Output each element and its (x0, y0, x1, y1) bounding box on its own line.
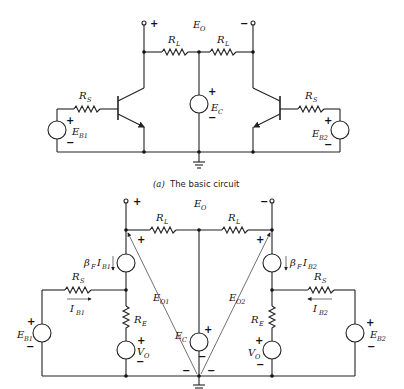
svg-text:L: L (163, 218, 168, 226)
load-resistor-left-b-label: R L (155, 212, 168, 226)
svg-text:R: R (133, 314, 142, 325)
node-voltage-eo1-label: E O1 (152, 292, 169, 306)
svg-text:+: + (366, 317, 374, 328)
load-resistor-left-label: R L (167, 34, 180, 48)
supply-label-ec-b: E C (174, 330, 187, 344)
svg-text:B2: B2 (318, 134, 328, 142)
source-resistor-left (74, 106, 100, 112)
svg-text:L: L (175, 40, 180, 48)
source-resistor-left-b-label: R S (71, 271, 85, 285)
svg-text:I: I (69, 303, 75, 314)
svg-text:R: R (71, 271, 80, 282)
dependent-source-left-label: β F I B1 (83, 257, 111, 271)
svg-text:B2: B2 (307, 263, 317, 271)
emitter-resistor-left (123, 306, 129, 331)
transistor-right (253, 88, 280, 152)
svg-text:L: L (224, 40, 229, 48)
svg-text:E: E (141, 320, 147, 328)
svg-text:O: O (201, 204, 207, 212)
svg-text:−: − (367, 341, 375, 352)
load-resistor-right-b-label: R L (227, 212, 240, 226)
svg-text:−: − (182, 365, 190, 376)
output-minus-sign: − (240, 18, 248, 29)
output-terminal-left (142, 21, 146, 25)
svg-text:B1: B1 (23, 335, 33, 343)
svg-text:The basic circuit: The basic circuit (169, 179, 240, 189)
svg-text:O2: O2 (236, 298, 245, 306)
input-source-eb1-b (33, 324, 51, 342)
dependent-current-source-right (263, 254, 281, 272)
svg-text:β: β (289, 257, 296, 268)
source-resistor-right (298, 106, 324, 112)
input-source-eb2-b (346, 324, 364, 342)
svg-text:R: R (304, 90, 313, 101)
svg-text:F: F (296, 263, 302, 271)
svg-text:+: + (27, 316, 35, 327)
svg-text:R: R (78, 90, 87, 101)
svg-text:S: S (80, 277, 85, 285)
caption-a: (a) The basic circuit (153, 179, 240, 189)
svg-text:−: − (198, 351, 206, 362)
svg-text:I: I (312, 303, 318, 314)
svg-text:+: + (324, 115, 332, 126)
load-resistor-left-b (150, 227, 176, 233)
differential-amplifier-figure: + − E O R L R L + − E (0, 0, 404, 389)
transistor-left (118, 88, 144, 152)
svg-text:S: S (87, 96, 92, 104)
svg-text:S: S (322, 277, 327, 285)
svg-text:−: − (207, 365, 215, 376)
load-resistor-left (162, 49, 188, 55)
output-voltage-label: E O (192, 19, 206, 33)
svg-text:(a): (a) (153, 179, 165, 189)
supply-source-ec (190, 95, 208, 113)
svg-text:R: R (250, 314, 259, 325)
svg-text:C: C (182, 336, 187, 344)
ground-icon-b (193, 376, 205, 388)
svg-text:R: R (227, 212, 236, 223)
vo-source-right (263, 341, 281, 359)
ec-plus: + (208, 86, 216, 97)
svg-text:S: S (313, 96, 318, 104)
svg-text:+: + (204, 324, 212, 335)
load-resistor-right (210, 49, 236, 55)
svg-text:O1: O1 (160, 298, 169, 306)
svg-text:C: C (218, 108, 223, 116)
circuit-b: + − E O R L R L + − E C (16, 196, 386, 388)
supply-source-ec-b (190, 333, 208, 351)
source-resistor-right-b-label: R S (313, 271, 327, 285)
svg-text:B1: B1 (75, 309, 85, 317)
svg-text:E: E (258, 320, 264, 328)
output-voltage-label-b: E O (193, 198, 207, 212)
input-source-eb1-b-label: E B1 (16, 329, 33, 343)
svg-text:O: O (255, 353, 261, 361)
svg-text:β: β (83, 257, 90, 268)
input-source-eb1 (48, 121, 66, 139)
output-plus-sign: + (150, 18, 158, 29)
svg-text:+: + (137, 335, 145, 346)
svg-text:B1: B1 (78, 132, 88, 140)
load-resistor-right-label: R L (216, 34, 229, 48)
svg-text:−: − (260, 196, 268, 207)
svg-text:+: + (255, 335, 263, 346)
svg-text:+: + (137, 234, 145, 245)
svg-text:B2: B2 (376, 335, 386, 343)
svg-text:+: + (256, 234, 264, 245)
svg-text:+: + (66, 115, 74, 126)
input-source-eb2-label: E B2 (311, 128, 328, 142)
vo-source-left (117, 341, 135, 359)
svg-text:B1: B1 (101, 263, 111, 271)
svg-text:R: R (313, 271, 322, 282)
emitter-resistor-left-label: R E (133, 314, 147, 328)
base-current-right-label: I B2 (312, 303, 328, 317)
output-terminal-left-b (124, 199, 128, 203)
base-current-left-label: I B1 (69, 303, 85, 317)
svg-text:+: + (133, 196, 141, 207)
input-source-eb2 (331, 121, 349, 139)
svg-text:−: − (66, 137, 74, 148)
dependent-current-source-left (117, 254, 135, 272)
emitter-resistor-right-label: R E (250, 314, 264, 328)
vo-source-right-label: V O (248, 347, 261, 361)
source-resistor-right-label: R S (304, 90, 318, 104)
svg-text:L: L (235, 218, 240, 226)
source-resistor-left-label: R S (78, 90, 92, 104)
